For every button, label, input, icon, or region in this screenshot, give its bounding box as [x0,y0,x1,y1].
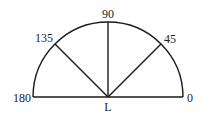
center-label: L [104,100,111,113]
label-180: 180 [13,91,31,105]
label-90: 90 [102,7,114,21]
label-135: 135 [35,31,53,45]
ray-45 [108,44,161,97]
label-0: 0 [187,91,193,105]
label-45: 45 [164,32,176,46]
ray-135 [55,44,108,97]
protractor-diagram: 90 135 45 180 0 L [0,0,204,113]
